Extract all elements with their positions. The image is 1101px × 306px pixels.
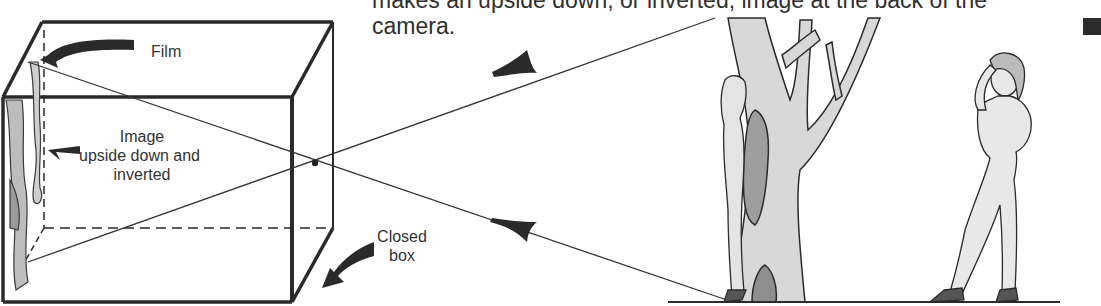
tree	[728, 18, 880, 302]
person-standing	[930, 53, 1031, 302]
ray-arrowheads	[490, 50, 537, 242]
page-marker-square	[1083, 18, 1101, 35]
closed-box-label-line-2: box	[372, 247, 432, 265]
pinhole	[312, 160, 318, 166]
film-label: Film	[151, 43, 181, 61]
image-label-line-1: Image	[82, 128, 202, 146]
person-behind-tree	[721, 76, 746, 302]
image-label-line-2: upside down and	[52, 147, 227, 165]
closed-box-label-line-1: Closed	[372, 228, 432, 246]
image-label-line-3: inverted	[82, 166, 202, 184]
